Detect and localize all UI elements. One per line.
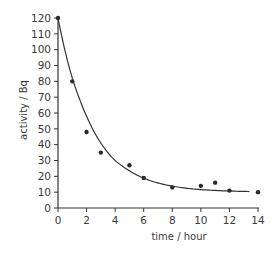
y-tick-label: 40 bbox=[38, 138, 51, 150]
y-tick-label: 100 bbox=[31, 43, 51, 55]
y-tick-label: 20 bbox=[38, 170, 51, 182]
x-axis-label: time / hour bbox=[151, 231, 207, 242]
x-axis: 02468101214 bbox=[55, 208, 265, 226]
data-point bbox=[199, 184, 203, 188]
data-point bbox=[170, 185, 174, 189]
x-tick-label: 8 bbox=[169, 214, 176, 226]
data-point bbox=[99, 150, 103, 154]
x-tick-label: 6 bbox=[140, 214, 147, 226]
y-tick-label: 60 bbox=[38, 107, 51, 119]
data-point bbox=[142, 176, 146, 180]
x-tick-label: 14 bbox=[251, 214, 265, 226]
y-tick-label: 30 bbox=[38, 154, 51, 166]
x-tick-label: 10 bbox=[194, 214, 207, 226]
data-point bbox=[127, 163, 131, 167]
data-point bbox=[256, 190, 260, 194]
y-tick-label: 10 bbox=[38, 186, 51, 198]
y-tick-label: 0 bbox=[44, 202, 51, 214]
y-tick-label: 80 bbox=[38, 75, 51, 87]
data-point bbox=[56, 16, 60, 20]
data-point bbox=[70, 79, 74, 83]
y-axis-label: activity / Bq bbox=[18, 80, 29, 140]
y-tick-label: 90 bbox=[38, 59, 51, 71]
x-tick-label: 2 bbox=[83, 214, 90, 226]
data-point bbox=[84, 130, 88, 134]
y-tick-label: 110 bbox=[31, 28, 51, 40]
x-tick-label: 0 bbox=[55, 214, 62, 226]
data-point bbox=[227, 188, 231, 192]
y-tick-label: 120 bbox=[31, 12, 51, 24]
y-tick-label: 70 bbox=[38, 91, 51, 103]
x-tick-label: 4 bbox=[112, 214, 119, 226]
data-point bbox=[213, 180, 217, 184]
x-tick-label: 12 bbox=[223, 214, 236, 226]
fit-curve bbox=[58, 18, 249, 192]
decay-curve bbox=[58, 18, 249, 192]
decay-chart: 0102030405060708090100110120 02468101214… bbox=[0, 0, 278, 255]
y-tick-label: 50 bbox=[38, 123, 51, 135]
y-axis: 0102030405060708090100110120 bbox=[31, 12, 58, 214]
data-points bbox=[56, 16, 260, 195]
